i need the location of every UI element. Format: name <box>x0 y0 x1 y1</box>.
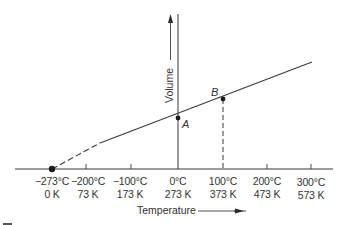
y-axis-arrow-head <box>168 14 173 23</box>
kelvin-label: 173 K <box>105 188 155 201</box>
y-axis-title: Volume <box>163 68 175 103</box>
kelvin-label: 273 K <box>153 188 203 201</box>
celsius-label: −100°C <box>105 175 155 188</box>
absolute-zero-point <box>49 166 55 172</box>
x-tick-label-0: 0°C 273 K <box>153 175 203 201</box>
x-tick-label-200: 200°C 473 K <box>242 175 292 201</box>
extrapolation-dashed-line <box>52 143 100 169</box>
celsius-label: 300°C <box>286 176 336 189</box>
point-b-label: B <box>211 86 218 98</box>
volume-temperature-line <box>100 62 312 143</box>
celsius-label: 200°C <box>242 175 292 188</box>
x-axis-title: Temperature <box>137 204 196 216</box>
kelvin-label: 573 K <box>286 189 336 202</box>
x-tick-label-100: 100°C 373 K <box>198 175 248 201</box>
point-a-label: A <box>182 118 189 130</box>
celsius-label: 0°C <box>153 175 203 188</box>
celsius-label: 100°C <box>198 175 248 188</box>
caption-fragment <box>3 223 12 225</box>
kelvin-label: 473 K <box>242 188 292 201</box>
kelvin-label: 373 K <box>198 188 248 201</box>
x-title-arrow-head <box>235 209 244 214</box>
point-b-marker <box>221 97 226 102</box>
x-axis-ticks <box>86 164 311 169</box>
point-a-marker <box>176 116 181 121</box>
x-tick-label-neg100: −100°C 173 K <box>105 175 155 201</box>
x-tick-label-300: 300°C 573 K <box>286 176 336 202</box>
